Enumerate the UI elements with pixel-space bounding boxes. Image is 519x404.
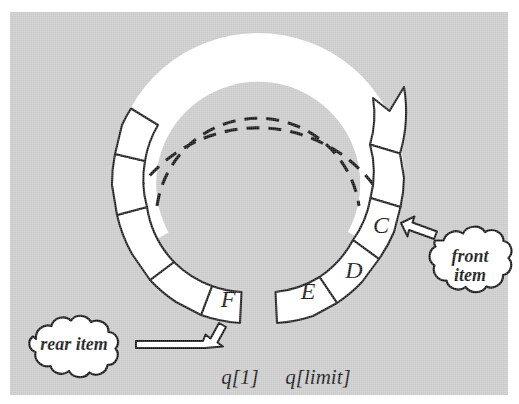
ring-cell-empty-right (370, 145, 404, 208)
ring-diagram-svg: C D E F front item rear item (0, 0, 519, 404)
front-item-label-line2: item (454, 265, 486, 285)
ring-cell-e-label: E (300, 278, 316, 304)
rear-item-label: rear item (40, 334, 108, 354)
front-item-label-line1: front (451, 246, 489, 266)
ring-cell-empty-left (112, 154, 147, 215)
ring-cell-f-label: F (220, 286, 236, 312)
ring-cell-c-label: C (373, 212, 390, 238)
figure-canvas: C D E F front item rear item (0, 0, 519, 404)
ring-cell-d-label: D (344, 257, 362, 283)
axis-label-q-one: q[1] (221, 365, 258, 389)
axis-label-q-limit: q[limit] (285, 365, 350, 389)
